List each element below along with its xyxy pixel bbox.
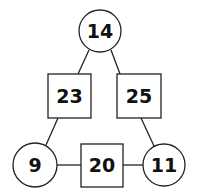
node-left-mid-value: 23	[56, 85, 82, 107]
node-top-circle: 14	[79, 10, 121, 52]
node-bottom-right-circle: 11	[143, 144, 185, 186]
edge-top-left-mid	[78, 50, 89, 74]
node-bottom-mid-square: 20	[81, 144, 123, 187]
node-bottom-left-circle: 9	[13, 143, 57, 187]
node-bottom-mid-value: 20	[89, 154, 115, 176]
node-right-mid-square: 25	[117, 74, 161, 118]
edge-top-right-mid	[111, 50, 120, 74]
node-top-value: 14	[87, 20, 113, 42]
edge-right-mid-bottom-right	[141, 118, 154, 146]
node-bottom-left-value: 9	[28, 154, 41, 176]
number-triangle-diagram: 14 23 25 9 20 11	[0, 0, 197, 196]
edge-left-mid-bottom-left	[46, 118, 58, 145]
node-right-mid-value: 25	[126, 85, 152, 107]
node-left-mid-square: 23	[48, 74, 91, 118]
node-bottom-right-value: 11	[151, 154, 177, 176]
